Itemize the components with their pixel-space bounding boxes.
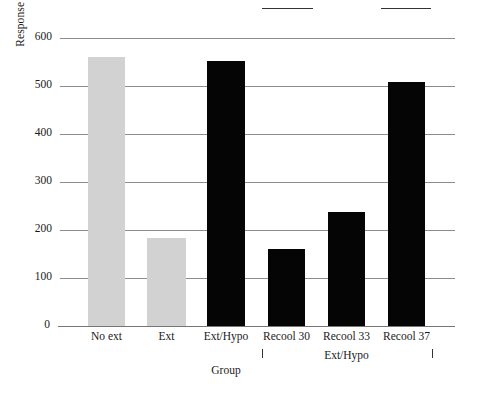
bar-recool-30 xyxy=(268,249,305,326)
y-tick-label-200: 200 xyxy=(35,223,52,235)
bar-recool-37 xyxy=(388,82,425,326)
bar-ext-hypo xyxy=(207,61,245,326)
y-tick-label-400: 400 xyxy=(35,127,52,138)
x-tick-label-recool-37: Recool 37 xyxy=(347,331,467,343)
x-axis-title: Group xyxy=(166,365,286,377)
bar-chart-figure: Response latency (sec) 01002003004005006… xyxy=(0,0,479,395)
y-axis-title: Response latency (sec) xyxy=(14,0,32,98)
y-tick-label-300: 300 xyxy=(35,175,52,187)
y-tick-label-500: 500 xyxy=(35,79,52,91)
plot-area: 0100200300400500600 xyxy=(60,38,455,326)
bracket-line-left xyxy=(262,8,313,9)
y-tick-label-100: 100 xyxy=(35,271,52,283)
bracket-line-right xyxy=(381,8,432,9)
bar-ext xyxy=(147,238,186,326)
gridline-600: 600 xyxy=(60,38,455,39)
bracket-label-ext-hypo: Ext/Hypo xyxy=(287,350,407,362)
bar-no-ext xyxy=(88,57,125,326)
y-tick-label-600: 600 xyxy=(35,31,52,43)
bar-recool-33 xyxy=(328,212,365,326)
x-axis-baseline: 0 xyxy=(58,326,455,327)
y-tick-label-0: 0 xyxy=(44,319,50,331)
